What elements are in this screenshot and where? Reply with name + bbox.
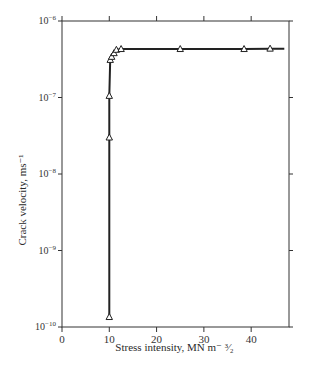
data-point-triangle — [106, 92, 112, 98]
y-tick-label: 10−6 — [39, 14, 57, 26]
x-axis-label: Stress intensity, MN m⁻ ³⁄₂ — [0, 341, 309, 354]
crack-velocity-chart: 01020304010−1010−910−810−710−6 — [0, 0, 309, 371]
data-point-triangle — [106, 134, 112, 140]
y-axis-label: Crack velocity, ms⁻¹ — [2, 120, 42, 280]
data-point-triangle — [106, 314, 112, 320]
plot-frame — [62, 21, 289, 327]
data-line — [109, 49, 284, 317]
y-axis-label-text: Crack velocity, ms⁻¹ — [16, 154, 29, 245]
y-tick-label: 10−10 — [35, 320, 56, 332]
y-tick-label: 10−7 — [39, 91, 57, 103]
